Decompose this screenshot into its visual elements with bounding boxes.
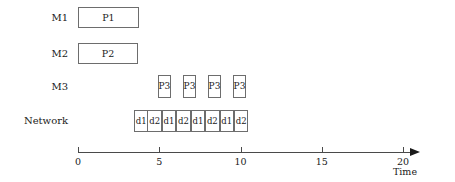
- network-packet-cell: d1: [191, 110, 205, 132]
- axis-tick-label: 10: [234, 157, 246, 167]
- row-label-m1: M1: [14, 13, 68, 23]
- time-axis-arrow-icon: [410, 148, 420, 156]
- axis-tick-label: 15: [316, 157, 328, 167]
- axis-tick: [159, 147, 160, 152]
- axis-tick: [78, 147, 79, 152]
- network-packet-cell: d2: [205, 110, 220, 132]
- task-bar: P2: [78, 43, 138, 64]
- axis-tick: [403, 147, 404, 152]
- row-label-m2: M2: [14, 49, 68, 59]
- axis-title-time: Time: [393, 167, 417, 177]
- task-bar: P3: [183, 75, 196, 98]
- network-packet-cell: d1: [134, 110, 148, 132]
- gantt-chart: M1 M2 M3 Network P1P2P3P3P3P3 d1d2d1d2d1…: [0, 0, 455, 182]
- network-packet-cell: d1: [162, 110, 177, 132]
- time-axis-line: [78, 152, 413, 153]
- axis-tick: [241, 147, 242, 152]
- network-packet-cell: d1: [220, 110, 235, 132]
- network-packet-cell: d2: [147, 110, 162, 132]
- network-packet-cell: d2: [176, 110, 191, 132]
- task-bar: P1: [78, 7, 139, 28]
- task-bar: P3: [158, 75, 171, 98]
- task-bar: P3: [208, 75, 221, 98]
- task-bar: P3: [233, 75, 246, 98]
- axis-tick: [322, 147, 323, 152]
- row-label-network: Network: [4, 116, 68, 126]
- row-label-m3: M3: [14, 82, 68, 92]
- axis-tick-label: 5: [156, 157, 162, 167]
- network-packet-cell: d2: [234, 110, 248, 132]
- axis-tick-label: 0: [75, 157, 81, 167]
